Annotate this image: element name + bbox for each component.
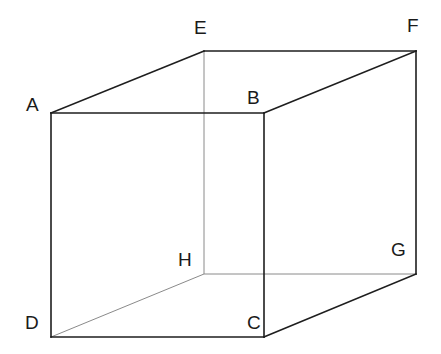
edge-ae xyxy=(51,51,204,113)
vertex-label-h: H xyxy=(178,249,192,270)
vertex-label-a: A xyxy=(26,94,39,115)
cube-diagram: A B C D E F G H xyxy=(0,0,441,354)
vertex-label-b: B xyxy=(247,87,260,108)
vertex-label-g: G xyxy=(391,239,406,260)
edge-fb xyxy=(264,51,416,113)
edge-gc xyxy=(264,274,416,337)
vertex-label-f: F xyxy=(407,15,419,36)
vertex-label-d: D xyxy=(25,312,39,333)
vertex-label-c: C xyxy=(247,312,261,333)
vertex-labels: A B C D E F G H xyxy=(25,15,419,333)
hidden-edge-hd xyxy=(51,274,204,337)
visible-edges xyxy=(51,51,416,337)
hidden-edges xyxy=(51,51,416,337)
vertex-label-e: E xyxy=(194,17,207,38)
